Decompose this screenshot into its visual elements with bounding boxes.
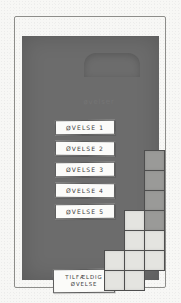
tile-cell[interactable] xyxy=(104,250,125,271)
tile-cell[interactable] xyxy=(144,150,165,171)
phone-body: øvelser ØVELSE 1 ØVELSE 2 ØVELSE 3 ØVELS… xyxy=(22,36,159,280)
exercise-button-2-label: ØVELSE 2 xyxy=(66,145,104,152)
tile-staircase-grid xyxy=(104,150,180,298)
exercise-button-3-label: ØVELSE 3 xyxy=(66,166,104,173)
exercise-button-4-label: ØVELSE 4 xyxy=(66,187,104,194)
tile-cell[interactable] xyxy=(144,230,165,251)
tile-cell[interactable] xyxy=(104,270,125,291)
tile-cell[interactable] xyxy=(124,250,145,271)
tile-cell[interactable] xyxy=(124,210,145,231)
page-title: øvelser xyxy=(68,97,130,106)
camera-bump-icon xyxy=(84,53,140,77)
tile-cell[interactable] xyxy=(124,230,145,251)
exercise-button-1[interactable]: ØVELSE 1 xyxy=(55,120,115,136)
tile-cell[interactable] xyxy=(144,190,165,211)
tile-cell[interactable] xyxy=(124,270,145,291)
tile-cell[interactable] xyxy=(144,170,165,191)
tile-cell[interactable] xyxy=(144,210,165,231)
random-exercise-label-line2: ØVELSE xyxy=(71,281,98,288)
exercise-button-5-label: ØVELSE 5 xyxy=(66,208,104,215)
tile-cell[interactable] xyxy=(144,250,165,271)
exercise-button-1-label: ØVELSE 1 xyxy=(66,124,104,131)
